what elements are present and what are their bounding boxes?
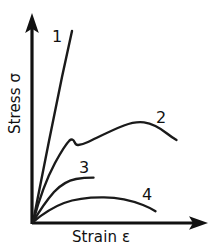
curve-4-label: 4 xyxy=(142,187,152,203)
x-axis-label: Strain ε xyxy=(72,230,130,245)
y-axis xyxy=(25,13,39,224)
curve-3-label: 3 xyxy=(79,160,89,176)
curve-1-label: 1 xyxy=(52,29,62,45)
stress-strain-diagram: Stress σ Strain ε 1 2 3 4 xyxy=(0,0,218,250)
curve-2-label: 2 xyxy=(156,110,166,126)
curve-4-path xyxy=(33,197,156,222)
plot-canvas xyxy=(0,0,218,250)
y-axis-label: Stress σ xyxy=(8,67,23,141)
